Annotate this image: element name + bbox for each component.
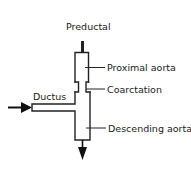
label-ductus: Ductus bbox=[33, 91, 66, 102]
label-proximal-aorta: Proximal aorta bbox=[107, 62, 176, 73]
descending-arrow-head-icon bbox=[78, 147, 87, 160]
coarctation-diagram: Preductal Proximal aorta Coarctation Duc… bbox=[0, 0, 191, 170]
label-coarctation: Coarctation bbox=[107, 84, 162, 95]
coarctation-right-wall bbox=[86, 82, 90, 92]
label-preductal: Preductal bbox=[66, 21, 111, 32]
coarctation-left-wall bbox=[75, 82, 79, 92]
ductus-arrow-head-icon bbox=[21, 102, 32, 113]
label-descending-aorta: Descending aorta bbox=[108, 123, 191, 134]
